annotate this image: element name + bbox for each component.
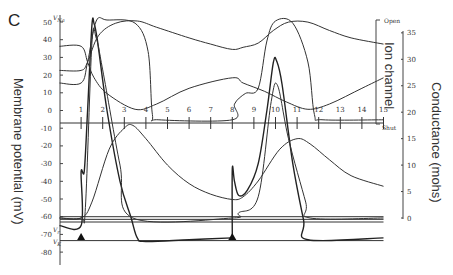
series-k-channel — [60, 21, 384, 71]
right-tick-label: 25 — [407, 82, 416, 90]
time-tick-label: 8 — [230, 106, 234, 114]
left-tick-label: 50 — [43, 19, 52, 27]
time-tick-label: 10 — [271, 106, 280, 114]
baselines — [60, 217, 384, 241]
ion-channel-shut-label: Shut — [382, 124, 397, 131]
right-tick-label: 35 — [407, 29, 416, 37]
series-membrane-potential-action-potential-2 — [232, 57, 383, 240]
time-tick-label: 6 — [187, 106, 192, 114]
left-tick-label: -80 — [41, 249, 52, 257]
panel-label: C — [8, 11, 20, 30]
left-tick-label: -70 — [41, 231, 52, 239]
series-group — [60, 18, 384, 242]
time-tick-label: 5 — [165, 106, 169, 114]
left-tick-label: -60 — [41, 213, 52, 221]
marker-vna: VNa — [53, 14, 65, 23]
right-axis-title: Conductance (mohs) — [429, 82, 444, 203]
series-k-conductance — [60, 124, 384, 219]
left-axis-title: Membrane potential (mV) — [11, 78, 26, 225]
time-tick-label: 14 — [357, 106, 366, 114]
ion-channel-title: Ion channel — [382, 42, 397, 109]
left-tick-label: 30 — [43, 54, 52, 62]
time-tick-label: 13 — [336, 106, 345, 114]
left-tick-label: 10 — [43, 89, 52, 97]
time-tick-label: 7 — [208, 106, 212, 114]
time-tick-label: 2 — [100, 106, 104, 114]
ion-channel-open-label: Open — [384, 17, 400, 25]
left-tick-label: -40 — [41, 178, 52, 186]
potential-markers: VNaVrVK — [53, 14, 65, 248]
left-tick-label: -50 — [41, 196, 52, 204]
right-tick-label: 0 — [407, 215, 411, 223]
left-tick-label: -10 — [41, 125, 52, 133]
right-tick-label: 30 — [407, 56, 416, 64]
left-tick-label: -30 — [41, 160, 52, 168]
time-tick-label: 1 — [79, 106, 83, 114]
stimulus-marker-stimulus-2 — [228, 233, 236, 240]
right-tick-label: 10 — [407, 162, 416, 170]
left-tick-label: 40 — [43, 36, 52, 44]
left-tick-label: 20 — [43, 72, 52, 80]
time-tick-label: 9 — [252, 106, 256, 114]
left-tick-label: 0 — [48, 107, 52, 115]
right-tick-label: 20 — [407, 109, 416, 117]
right-tick-label: 5 — [407, 188, 411, 196]
action-potential-figure: C 50403020100-10-20-30-40-50-60-70-80 Me… — [0, 0, 453, 275]
left-tick-label: -20 — [41, 142, 52, 150]
stimulus-marker-stimulus-1 — [77, 233, 85, 240]
marker-vr: Vr — [53, 226, 60, 235]
time-tick-label: 3 — [122, 106, 126, 114]
series-na-conductance — [60, 28, 384, 223]
right-tick-label: 15 — [407, 135, 416, 143]
